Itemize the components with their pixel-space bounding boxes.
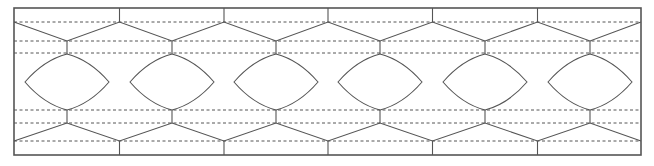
- eye-opening: [25, 54, 109, 110]
- eye-opening: [548, 54, 632, 110]
- eye-opening: [338, 54, 422, 110]
- upper-trace: [14, 22, 641, 41]
- eye-opening: [443, 54, 527, 110]
- eye-opening: [234, 54, 318, 110]
- eye-openings: [25, 54, 632, 110]
- eye-diagram: [0, 0, 654, 166]
- lower-trace: [14, 123, 641, 141]
- eye-opening: [130, 54, 214, 110]
